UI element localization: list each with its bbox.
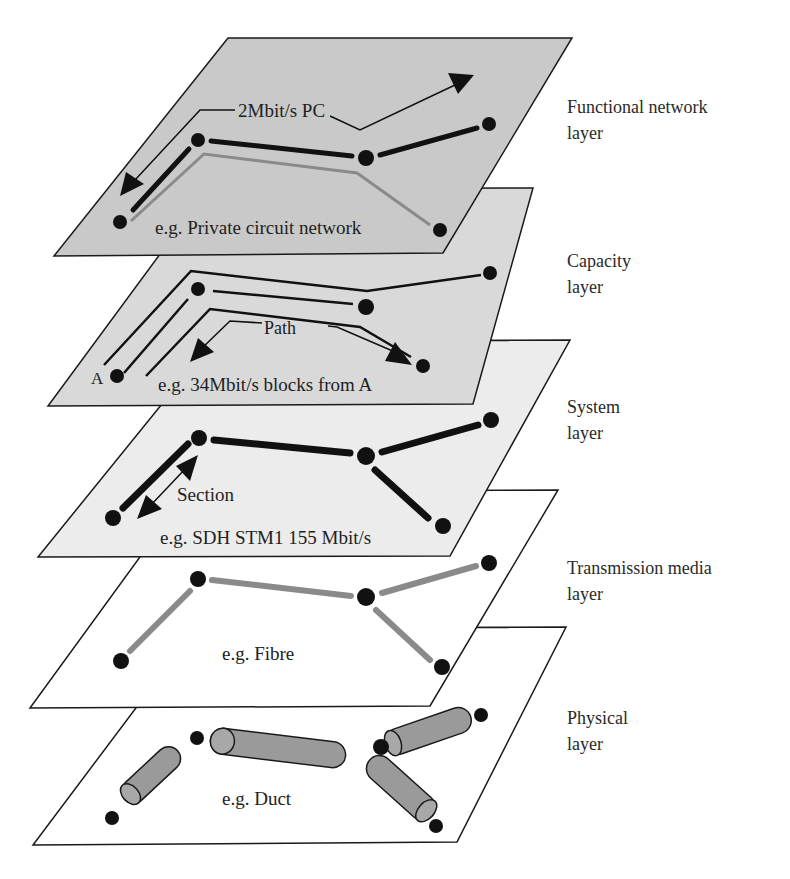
path-annotation: Path [264, 318, 296, 338]
node-icon [190, 571, 206, 587]
layer-label-capacity: Capacity layer [567, 248, 631, 300]
layer-label-line: layer [567, 274, 631, 300]
layer-label-functional: Functional network layer [567, 94, 707, 146]
node-icon [113, 653, 129, 669]
node-icon [434, 659, 450, 675]
node-icon [435, 518, 451, 534]
node-icon [191, 282, 205, 296]
node-icon [433, 223, 447, 237]
node-icon [416, 359, 430, 373]
node-icon [482, 117, 496, 131]
node-icon [357, 447, 375, 465]
node-icon [429, 819, 443, 833]
node-icon [113, 215, 127, 229]
node-icon [105, 510, 121, 526]
layer-label-line: layer [567, 581, 712, 607]
node-icon [191, 133, 205, 147]
layer-label-line: layer [567, 420, 620, 446]
capacity-example-text: e.g. 34Mbit/s blocks from A [158, 374, 373, 395]
layer-label-physical: Physical layer [567, 705, 628, 757]
layer-label-line: Transmission media [567, 555, 712, 581]
node-icon [110, 369, 124, 383]
layer-label-line: Physical [567, 705, 628, 731]
node-icon [358, 150, 374, 166]
node-icon [191, 430, 207, 446]
node-icon [483, 266, 497, 280]
node-icon [105, 811, 119, 825]
layer-label-line: layer [567, 120, 707, 146]
node-icon [483, 412, 499, 428]
system-example-text: e.g. SDH STM1 155 Mbit/s [160, 527, 371, 548]
section-annotation: Section [177, 484, 234, 505]
layer-label-line: System [567, 394, 620, 420]
layer-label-line: Capacity [567, 248, 631, 274]
node-icon [357, 588, 375, 606]
layer-label-system: System layer [567, 394, 620, 446]
node-icon [373, 739, 389, 755]
layer-label-line: layer [567, 731, 628, 757]
node-a-label: A [91, 369, 104, 388]
node-icon [474, 708, 488, 722]
physical-example-text: e.g. Duct [222, 788, 292, 809]
layer-label-line: Functional network [567, 94, 707, 120]
transmission-example-text: e.g. Fibre [222, 643, 294, 664]
pc-annotation: 2Mbit/s PC [238, 100, 325, 121]
node-icon [481, 555, 497, 571]
functional-example-text: e.g. Private circuit network [155, 217, 362, 238]
layer-label-transmission: Transmission media layer [567, 555, 712, 607]
node-icon [190, 731, 204, 745]
node-icon [358, 299, 374, 315]
